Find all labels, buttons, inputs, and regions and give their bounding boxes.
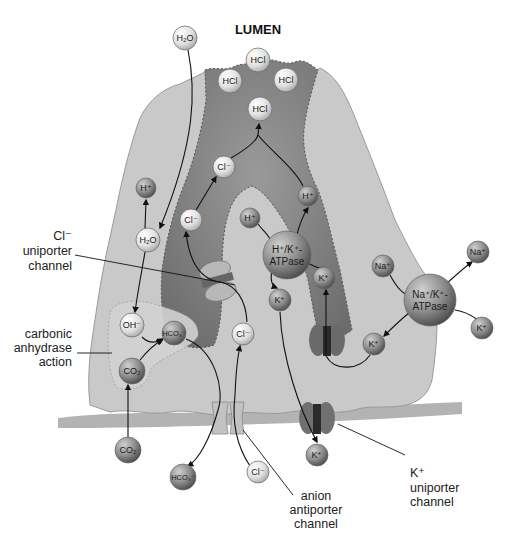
- molecule-cl-blood: Cl⁻: [247, 461, 269, 483]
- molecule-cl-mid: Cl⁻: [180, 209, 202, 231]
- molecule-nak-atpase: Na⁺/K⁺-ATPase: [404, 274, 456, 326]
- molecule-label: OH⁻: [123, 320, 142, 330]
- k-uniporter-channel: [299, 402, 335, 434]
- molecule-na-in: Na⁺: [372, 255, 394, 277]
- label-cl-uniporter: Cl⁻ uniporter channel: [23, 229, 72, 273]
- molecule-label: Cl⁻: [217, 162, 231, 172]
- molecule-hco3-blood: HCO₃⁻: [170, 464, 196, 490]
- molecule-label: HCl: [279, 75, 294, 85]
- label-line: anhydrase: [14, 341, 72, 355]
- label-line: uniporter: [23, 244, 72, 258]
- molecule-na-out: Na⁺: [467, 241, 489, 263]
- label-line: carbonic: [25, 327, 72, 341]
- molecule-k-blood: K⁺: [306, 444, 328, 466]
- molecule-h2o-lumen: H₂O: [173, 26, 197, 50]
- molecule-hco3-cell: HCO₃⁻: [162, 321, 186, 345]
- molecule-oh: OH⁻: [120, 313, 144, 337]
- molecule-h-left: H⁺: [136, 178, 156, 198]
- molecule-hcl-left: HCl: [218, 69, 242, 93]
- label-anion-antiporter: anion antiporter channel: [290, 489, 343, 531]
- molecule-h-right-lower: H⁺: [240, 208, 260, 228]
- molecule-cl-cell: Cl⁻: [232, 323, 254, 345]
- parietal-cell-diagram: LUMEN Cl⁻ uniporter channel carbonic anh…: [0, 0, 515, 546]
- molecule-label: HCO₃⁻: [162, 329, 186, 338]
- molecule-label: HCl: [253, 104, 268, 114]
- molecule-h-right-upper: H⁺: [298, 186, 318, 206]
- label-line: channel: [294, 517, 338, 531]
- molecule-label: Cl⁻: [251, 467, 265, 477]
- molecule-k-channel-top: K⁺: [313, 267, 335, 289]
- molecule-label: K⁺: [311, 450, 322, 460]
- molecule-label: H⁺: [302, 191, 314, 201]
- molecule-label: Na⁺: [470, 247, 487, 257]
- label-line: Cl⁻: [53, 229, 72, 243]
- molecule-k-right-out: K⁺: [471, 317, 493, 339]
- label-line: channel: [28, 259, 72, 273]
- apical-k-channel: [309, 324, 345, 356]
- molecule-label: ATPase: [270, 256, 305, 267]
- molecule-label: HCO₃⁻: [171, 473, 195, 482]
- molecule-hcl-right: HCl: [274, 68, 298, 92]
- molecule-k-left: K⁺: [269, 289, 291, 311]
- molecule-cl-upper: Cl⁻: [213, 156, 235, 178]
- molecule-hcl-center: HCl: [248, 97, 272, 121]
- molecule-k-right-in: K⁺: [363, 333, 385, 355]
- molecule-co2-blood: CO₂: [115, 437, 141, 463]
- molecule-label: HCl: [251, 55, 266, 65]
- label-line: antiporter: [290, 503, 343, 517]
- molecule-label: H⁺/K⁺-: [272, 244, 302, 255]
- molecule-label: H₂O: [140, 235, 157, 245]
- label-line: uniporter: [410, 481, 459, 495]
- molecule-label: CO₂: [120, 445, 138, 455]
- lumen-title: LUMEN: [235, 22, 281, 37]
- molecule-label: Na⁺: [375, 261, 392, 271]
- molecule-label: Na⁺/K⁺-: [412, 289, 448, 300]
- molecule-label: K⁺: [476, 323, 487, 333]
- molecule-label: H⁺: [244, 213, 256, 223]
- molecule-label: H₂O: [177, 33, 194, 43]
- molecule-label: H⁺: [140, 183, 152, 193]
- molecule-label: K⁺: [368, 339, 379, 349]
- molecule-label: Cl⁻: [236, 329, 250, 339]
- molecule-hk-atpase: H⁺/K⁺-ATPase: [263, 231, 311, 279]
- label-k-uniporter: K⁺ uniporter channel: [410, 466, 459, 509]
- molecule-label: Cl⁻: [184, 215, 198, 225]
- label-line: channel: [410, 495, 454, 509]
- label-line: anion: [301, 489, 332, 503]
- label-carbonic-anhydrase: carbonic anhydrase action: [14, 327, 72, 369]
- label-line: K⁺: [410, 466, 425, 480]
- label-line: action: [39, 355, 72, 369]
- molecule-co2-cell: CO₂: [119, 358, 145, 384]
- molecule-h2o-cell: H₂O: [136, 228, 160, 252]
- molecule-label: CO₂: [124, 366, 142, 376]
- molecule-label: ATPase: [413, 301, 448, 312]
- molecule-label: HCl: [223, 76, 238, 86]
- molecule-label: K⁺: [274, 295, 285, 305]
- molecule-label: K⁺: [318, 273, 329, 283]
- molecule-hcl-top: HCl: [246, 48, 270, 72]
